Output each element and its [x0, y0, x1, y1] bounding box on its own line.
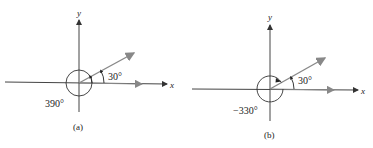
reference-angle-label: 30°: [298, 75, 312, 86]
angle-arc-30: [101, 71, 104, 83]
x-axis-label: x: [360, 86, 365, 96]
x-axis-label: x: [169, 80, 174, 90]
y-axis-label: y: [267, 12, 272, 22]
terminal-ray: [79, 53, 134, 83]
panel-b: y x 30° −330° (b): [192, 12, 365, 140]
reference-angle-label: 30°: [108, 71, 122, 82]
panel-caption: (b): [264, 130, 275, 140]
coterminal-angles-figure: y x 30° 390° (a) y x 30° −330° (b): [0, 0, 373, 148]
total-angle-label: −330°: [233, 105, 258, 116]
total-angle-label: 390°: [45, 98, 64, 109]
panel-caption: (a): [73, 122, 83, 132]
y-axis-label: y: [76, 8, 81, 18]
angle-arc-30: [291, 78, 294, 90]
angle-arc-inner: [90, 77, 92, 84]
panel-a: y x 30° 390° (a): [5, 8, 174, 132]
